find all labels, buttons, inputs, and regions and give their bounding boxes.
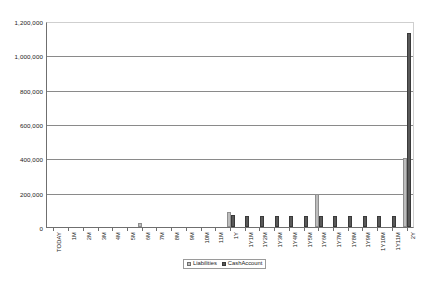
x-axis-label-cell: 9M (178, 232, 193, 262)
bar-group (282, 22, 297, 227)
bar-group (253, 22, 268, 227)
bar-group (106, 22, 121, 227)
bar-cashaccount (260, 216, 264, 227)
y-axis-tick-label: 400,000 (20, 156, 43, 163)
bar-group (385, 22, 400, 227)
bar-cashaccount (304, 216, 308, 227)
plot-area (46, 22, 414, 228)
bar-group (297, 22, 312, 227)
bar-group (47, 22, 62, 227)
x-axis-label-cell: 7M (149, 232, 164, 262)
bar-group (179, 22, 194, 227)
legend-swatch-icon (187, 262, 191, 266)
x-axis-label-cell: 1Y6M (311, 232, 326, 262)
x-axis-label-cell: 1Y2M (252, 232, 267, 262)
bar-group (194, 22, 209, 227)
x-axis-label-cell: 10M (193, 232, 208, 262)
bar-cashaccount (275, 216, 279, 227)
y-axis-tick-label: 600,000 (20, 122, 43, 129)
x-axis-label-cell: 3M (90, 232, 105, 262)
x-axis-label-cell: 1Y (223, 232, 238, 262)
x-axis-label-cell: 1Y11M (385, 232, 400, 262)
x-axis-label-cell: 1Y10M (370, 232, 385, 262)
bar-group (355, 22, 370, 227)
chart-legend: LiabilitiesCashAccount (183, 259, 266, 269)
bar-cashaccount (319, 216, 323, 227)
x-axis-label-cell: 4M (105, 232, 120, 262)
x-axis-label-cell: 1Y8M (340, 232, 355, 262)
bar-group (370, 22, 385, 227)
x-axis-label-cell: 1Y1M (237, 232, 252, 262)
x-axis-label-cell: 1Y3M (267, 232, 282, 262)
bar-group (326, 22, 341, 227)
y-axis-labels: 0200,000400,000600,000800,0001,000,0001,… (0, 22, 43, 228)
bar-liabilities (138, 223, 142, 227)
bar-group (267, 22, 282, 227)
x-axis-label-cell: 1Y5M (296, 232, 311, 262)
x-axis-label-cell: 6M (134, 232, 149, 262)
y-axis-tick-label: 1,000,000 (15, 53, 43, 60)
legend-label: Liabilities (193, 261, 217, 267)
x-axis-label-cell: 2M (75, 232, 90, 262)
bar-cashaccount (392, 216, 396, 227)
x-axis-label-cell: 1Y7M (326, 232, 341, 262)
x-axis-label-cell: 5M (120, 232, 135, 262)
x-axis-label-cell: 1Y9M (355, 232, 370, 262)
legend-swatch-icon (222, 262, 226, 266)
bar-group (223, 22, 238, 227)
bar-group (120, 22, 135, 227)
x-axis-label-cell: TODAY (46, 232, 61, 262)
bar-group (135, 22, 150, 227)
bar-groups (47, 22, 414, 227)
x-axis-label-cell: 2Y (399, 232, 414, 262)
x-axis-labels: TODAY1M2M3M4M5M6M7M8M9M10M11M1Y1Y1M1Y2M1… (46, 232, 414, 262)
bar-cashaccount (231, 215, 235, 227)
bar-group (150, 22, 165, 227)
y-axis-tick-label: 0 (39, 225, 43, 232)
legend-label: CashAccount (228, 261, 262, 267)
y-axis-tick-label: 800,000 (20, 87, 43, 94)
bar-group (238, 22, 253, 227)
legend-item[interactable]: Liabilities (187, 261, 217, 267)
bar-cashaccount (363, 216, 367, 227)
bar-group (400, 22, 415, 227)
bar-chart: 0200,000400,000600,000800,0001,000,0001,… (0, 0, 430, 284)
legend-item[interactable]: CashAccount (222, 261, 262, 267)
bar-group (165, 22, 180, 227)
x-axis-label-cell: 1Y4M (282, 232, 297, 262)
x-axis-label-cell: 1M (61, 232, 76, 262)
bar-cashaccount (245, 216, 249, 227)
bar-group (311, 22, 326, 227)
bar-cashaccount (333, 216, 337, 227)
bar-cashaccount (348, 216, 352, 227)
bar-cashaccount (289, 216, 293, 227)
x-axis-label-cell: 11M (208, 232, 223, 262)
x-axis-tick-label: 2Y (410, 232, 416, 239)
bar-group (76, 22, 91, 227)
bar-group (91, 22, 106, 227)
bar-group (209, 22, 224, 227)
y-axis-tick-label: 1,200,000 (15, 19, 43, 26)
bar-cashaccount (377, 216, 381, 227)
bar-cashaccount (407, 33, 411, 227)
x-axis-label-cell: 8M (164, 232, 179, 262)
bar-group (341, 22, 356, 227)
y-axis-tick-label: 200,000 (20, 190, 43, 197)
bar-group (62, 22, 77, 227)
